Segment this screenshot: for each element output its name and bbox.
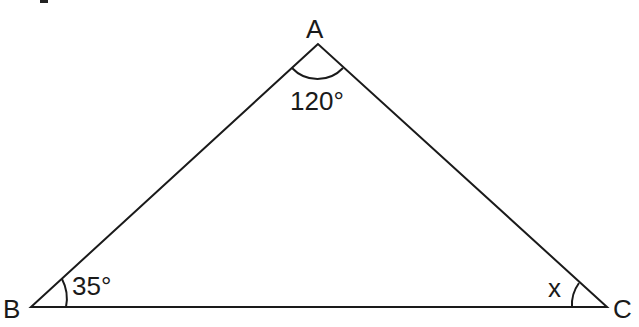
angle-arc-a <box>292 68 343 79</box>
angle-label-a: 120° <box>290 86 344 116</box>
triangle-diagram: A B C 120° 35° x <box>0 0 639 327</box>
vertex-label-b: B <box>3 294 20 324</box>
angle-arc-c <box>572 283 579 307</box>
triangle-abc <box>31 44 607 307</box>
angle-label-c: x <box>548 273 561 303</box>
vertex-label-a: A <box>306 14 324 44</box>
angle-arc-b <box>62 279 67 307</box>
vertex-label-c: C <box>613 294 632 324</box>
angle-label-b: 35° <box>72 271 111 301</box>
